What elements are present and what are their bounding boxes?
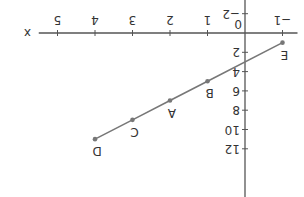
y-tick-label: 2 (232, 45, 240, 59)
x-tick-label: 2 (166, 13, 174, 27)
point-label-d: D (92, 144, 101, 158)
data-point-b (205, 79, 210, 84)
coordinate-plane-chart: xy0−112345−224681012EBACD (0, 0, 304, 197)
x-tick-label: 3 (129, 13, 137, 27)
x-tick-label: 1 (204, 13, 212, 27)
data-point-e (280, 40, 285, 45)
data-point-c (130, 118, 135, 123)
series-line (95, 43, 283, 140)
point-label-a: A (167, 106, 176, 120)
y-tick-label: 10 (225, 123, 240, 137)
y-tick-label: 12 (225, 142, 240, 156)
x-tick-label: −1 (274, 13, 292, 27)
x-tick-label: 5 (54, 13, 62, 27)
y-tick-label: 8 (232, 103, 240, 117)
x-tick-label: 4 (91, 13, 99, 27)
y-tick-label: −2 (222, 7, 240, 21)
y-tick-label: 6 (232, 84, 240, 98)
point-label-b: B (205, 86, 213, 100)
rotated-plot-group: xy0−112345−224681012EBACD (24, 0, 298, 197)
chart-svg: xy0−112345−224681012EBACD (0, 0, 304, 197)
x-axis-label: x (24, 26, 31, 40)
data-point-a (168, 98, 173, 103)
data-point-d (93, 137, 98, 142)
point-label-e: E (281, 48, 289, 62)
point-label-c: C (130, 125, 138, 139)
